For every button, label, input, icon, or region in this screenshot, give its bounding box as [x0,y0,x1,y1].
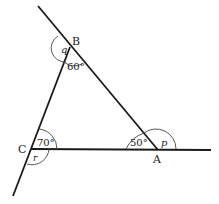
vertex-label-c: C [18,143,26,156]
angle-label-p: p [161,137,168,148]
angle-label-c-70: 70° [37,137,55,148]
vertex-label-a: A [152,153,162,166]
line-through-b-a [38,6,158,150]
angle-label-a-50: 50° [130,137,148,148]
angle-label-q: q [61,44,67,55]
vertex-label-b: B [72,35,80,48]
angle-label-r: r [33,153,38,163]
line-through-c-b [13,47,70,196]
triangle-diagram: B C A q 60° 70° r 50° p [0,0,219,204]
line-through-c-a [31,149,211,150]
angle-label-b-60: 60° [67,61,85,72]
